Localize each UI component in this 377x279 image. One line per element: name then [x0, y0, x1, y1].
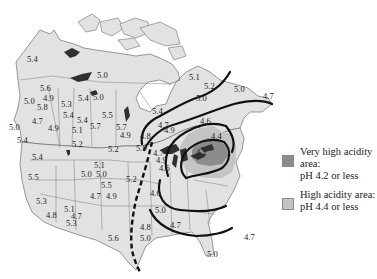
ph-label: 5.0	[93, 92, 104, 102]
ph-label: 5.0	[97, 70, 108, 80]
ph-label: 5.5	[101, 180, 112, 190]
ph-label: 5.8	[37, 102, 48, 112]
legend-label-very-high-line1: Very high acidity area:	[300, 146, 377, 170]
ph-label: 5.4	[63, 110, 74, 120]
ph-label: 5.3	[66, 218, 77, 228]
ph-label: 5.4	[27, 54, 38, 64]
ph-label: 5.2	[72, 139, 83, 149]
ph-label: 5.0	[96, 169, 107, 179]
legend: Very high acidity area: pH 4.2 or less H…	[282, 146, 377, 220]
ph-label: 5.3	[61, 99, 72, 109]
ph-label: 5.0	[140, 233, 151, 243]
ph-label: 5.2	[108, 144, 119, 154]
ph-label: 5.0	[81, 169, 92, 179]
legend-label-high-line2: pH 4.4 or less	[300, 201, 377, 213]
ph-label: 5.0	[155, 205, 166, 215]
high-swatch	[282, 198, 294, 210]
ph-label: 4.4	[211, 131, 222, 141]
ph-label: 5.4	[78, 93, 89, 103]
ph-label: 4.8	[46, 210, 57, 220]
ph-label: 5.5	[28, 172, 39, 182]
ph-label: 5.4	[32, 152, 43, 162]
ph-label: 4.6	[150, 188, 161, 198]
legend-item-very-high: Very high acidity area: pH 4.2 or less	[282, 146, 377, 182]
ph-label: 4.7	[170, 220, 181, 230]
ph-label: 4.2	[196, 147, 207, 157]
ph-label: 5.5	[102, 110, 113, 120]
ph-label: 4.9	[48, 123, 59, 133]
ph-label: 5.6	[108, 233, 119, 243]
legend-item-high: High acidity area: pH 4.4 or less	[282, 189, 377, 213]
ph-label: 5.1	[72, 125, 83, 135]
ph-label: 4.9	[164, 125, 175, 135]
ph-label: 5.4	[152, 106, 163, 116]
ph-label: 5.3	[36, 196, 47, 206]
ph-label: 4.8	[140, 222, 151, 232]
ph-label: 4.7	[244, 232, 255, 242]
ph-label: 5.6	[40, 83, 51, 93]
acid-rain-map: 5.45.05.64.95.05.85.35.45.05.45.45.54.75…	[0, 0, 377, 279]
ph-label: 5.0	[196, 93, 207, 103]
ph-label: 5.4	[77, 115, 88, 125]
ph-label: 4.7	[32, 116, 43, 126]
very-high-swatch	[282, 155, 294, 167]
ph-label: 5.7	[90, 121, 101, 131]
ph-label: 5.1	[189, 72, 200, 82]
ph-label: 4.9	[106, 191, 117, 201]
ph-label: 4.6	[159, 163, 170, 173]
ph-label: 4.7	[90, 191, 101, 201]
ph-label: 4.9	[120, 130, 131, 140]
ph-label: 5.2	[126, 174, 137, 184]
ph-label: 5.0	[136, 143, 147, 153]
ph-label: 4.8	[140, 131, 151, 141]
ph-label: 5.2	[204, 81, 215, 91]
ph-label: 5.0	[9, 122, 20, 132]
ph-label: 5.0	[207, 249, 218, 259]
legend-label-high-line1: High acidity area:	[300, 189, 377, 201]
ph-label: 4.6	[200, 116, 211, 126]
ph-label: 5.4	[17, 135, 28, 145]
ph-label: 4.7	[263, 91, 274, 101]
ph-label: 5.0	[234, 84, 245, 94]
ph-label: 5.0	[24, 96, 35, 106]
legend-label-very-high-line2: pH 4.2 or less	[300, 170, 377, 182]
